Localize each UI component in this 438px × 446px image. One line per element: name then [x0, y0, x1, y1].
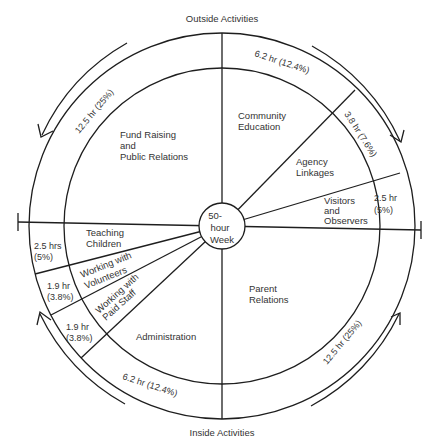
paid-staff-hours-2: (3.8%) — [66, 333, 93, 343]
time-allocation-diagram: Outside Activities Inside Activities 50-… — [0, 0, 438, 446]
segment-fund-raising: Fund Raising and Public Relations 12.5 h… — [73, 87, 188, 162]
segment-administration: Administration 6.2 hr (12.4%) — [121, 331, 196, 399]
fund-raising-label-1: Fund Raising — [120, 129, 176, 140]
volunteers-hours-2: (3.8%) — [47, 292, 74, 302]
volunteers-hours-1: 1.9 hr — [47, 281, 70, 291]
center-label-line3: Week — [210, 234, 234, 245]
center-label-line2: hour — [210, 222, 229, 233]
parent-relations-label-1: Parent — [249, 283, 277, 294]
paid-staff-hours-1: 1.9 hr — [66, 322, 89, 332]
segment-community-education: Community Education 6.2 hr (12.4%) — [238, 48, 311, 132]
teaching-hours-2: (5%) — [34, 252, 53, 262]
community-education-label-2: Education — [238, 121, 280, 132]
parent-relations-hours: 12.5 hr (25%) — [321, 318, 364, 366]
segment-agency-linkages: Agency Linkages 3.8 hr (7.6%) — [296, 110, 379, 178]
fund-raising-label-2: and — [120, 140, 136, 151]
segment-visitors-observers: Visitors and Observers 2.5 hr (5%) — [324, 193, 397, 226]
visitors-label-3: Observers — [324, 215, 368, 226]
visitors-hours-1: 2.5 hr — [374, 193, 397, 203]
inside-activities-title: Inside Activities — [190, 427, 255, 438]
teaching-label-1: Teaching — [86, 227, 124, 238]
community-education-hours: 6.2 hr (12.4%) — [253, 48, 310, 75]
spoke-volunteers-paidstaff — [51, 226, 222, 315]
fund-raising-hours: 12.5 hr (25%) — [73, 87, 116, 135]
teaching-label-2: Children — [86, 238, 121, 249]
administration-label: Administration — [136, 331, 196, 342]
teaching-hours-1: 2.5 hrs — [34, 241, 62, 251]
agency-linkages-label-1: Agency — [296, 156, 328, 167]
center-label-line1: 50- — [208, 210, 222, 221]
visitors-hours-2: (5%) — [374, 205, 393, 215]
parent-relations-label-2: Relations — [249, 294, 289, 305]
outside-activities-title: Outside Activities — [186, 13, 259, 24]
agency-linkages-label-2: Linkages — [296, 167, 334, 178]
segment-parent-relations: Parent Relations 12.5 hr (25%) — [249, 283, 364, 366]
community-education-label-1: Community — [238, 110, 286, 121]
fund-raising-label-3: Public Relations — [120, 151, 188, 162]
